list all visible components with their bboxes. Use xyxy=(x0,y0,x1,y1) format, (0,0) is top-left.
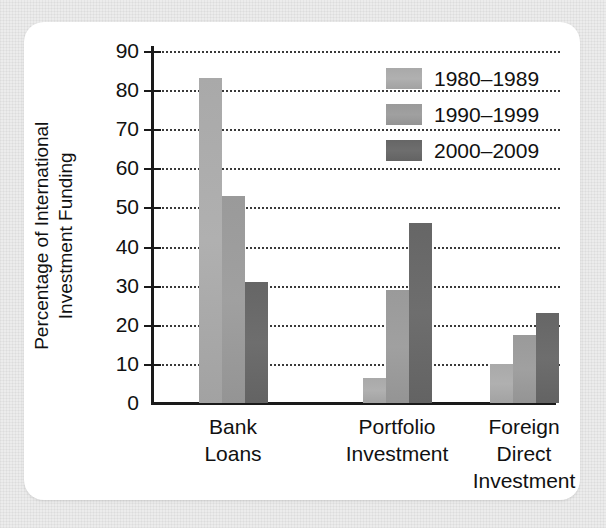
plot-area: Percentage of International Investment F… xyxy=(24,22,580,500)
y-tick-label-0: 0 xyxy=(95,392,139,413)
bar-0-1 xyxy=(222,196,245,403)
y-axis-title-line2: Investment Funding xyxy=(54,66,78,406)
bar-0-2 xyxy=(245,282,268,403)
legend-label-2: 2000–2009 xyxy=(434,140,539,161)
legend-swatch-1 xyxy=(386,104,422,125)
category-label-0-line-1: Loans xyxy=(143,441,323,468)
bar-0-0 xyxy=(199,78,222,403)
y-tick-label-30: 30 xyxy=(95,275,139,296)
y-axis-title: Percentage of International Investment F… xyxy=(30,66,78,406)
y-tick-label-10: 10 xyxy=(95,353,139,374)
y-tick-label-50: 50 xyxy=(95,196,139,217)
y-tick-label-60: 60 xyxy=(95,157,139,178)
legend-label-0: 1980–1989 xyxy=(434,68,539,89)
legend-swatch-2 xyxy=(386,140,422,161)
category-label-0: BankLoans xyxy=(143,414,323,468)
figure-frame: Percentage of International Investment F… xyxy=(0,0,606,528)
bar-2-1 xyxy=(513,335,536,403)
chart-legend: 1980–19891990–19992000–2009 xyxy=(386,60,539,168)
y-tick-label-20: 20 xyxy=(95,314,139,335)
bar-2-2 xyxy=(536,313,559,403)
category-label-2-line-2: Investment xyxy=(434,468,606,495)
y-tick-label-90: 90 xyxy=(95,40,139,61)
bar-1-0 xyxy=(363,378,386,403)
category-label-2-line-1: Direct xyxy=(434,441,606,468)
bar-2-0 xyxy=(490,364,513,403)
y-tick-label-70: 70 xyxy=(95,118,139,139)
y-axis-title-line1: Percentage of International xyxy=(30,66,54,406)
y-tick-label-80: 80 xyxy=(95,79,139,100)
legend-item-0: 1980–1989 xyxy=(386,60,539,96)
legend-label-1: 1990–1999 xyxy=(434,104,539,125)
gridline-90 xyxy=(153,51,560,53)
category-label-0-line-0: Bank xyxy=(143,414,323,441)
bar-1-1 xyxy=(386,290,409,403)
legend-swatch-0 xyxy=(386,68,422,89)
bar-1-2 xyxy=(409,223,432,403)
y-tick-label-40: 40 xyxy=(95,236,139,257)
y-axis-line xyxy=(151,46,154,405)
chart-card: Percentage of International Investment F… xyxy=(24,22,580,500)
category-label-2: ForeignDirectInvestment xyxy=(434,414,606,495)
legend-item-2: 2000–2009 xyxy=(386,132,539,168)
category-label-2-line-0: Foreign xyxy=(434,414,606,441)
legend-item-1: 1990–1999 xyxy=(386,96,539,132)
